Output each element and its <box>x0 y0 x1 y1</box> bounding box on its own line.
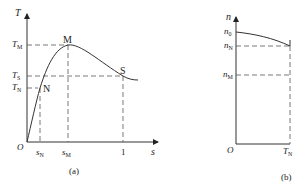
a-tick-sN: sN <box>36 148 44 158</box>
a-tick-1: 1 <box>121 148 126 157</box>
a-tick-sM: sM <box>62 148 71 158</box>
a-origin-label: O <box>17 143 24 152</box>
point-N-label: N <box>43 84 50 94</box>
point-M-label: M <box>63 35 72 45</box>
a-x-axis-label: s <box>151 147 155 157</box>
caption-a: (a) <box>69 167 79 176</box>
a-tick-TS: TS <box>12 71 20 81</box>
speed-torque-curve <box>236 32 290 46</box>
b-tick-nN: nN <box>224 41 233 51</box>
figure-b-axes <box>236 17 290 144</box>
figure-a-dashes <box>27 45 123 142</box>
b-tick-TN: TN <box>283 147 292 157</box>
a-tick-TM: TM <box>12 40 22 50</box>
a-y-axis-label: T <box>15 8 21 18</box>
point-S-label: S <box>120 66 126 76</box>
figure-a-axes <box>27 14 158 142</box>
caption-b: (b) <box>281 173 292 182</box>
b-tick-n0: n0 <box>224 27 232 37</box>
a-tick-TN: TN <box>12 83 21 93</box>
figure-b-dashes <box>236 46 290 144</box>
b-tick-nM: nM <box>223 70 233 80</box>
diagram-canvas <box>0 0 293 191</box>
b-y-axis-label: n <box>226 12 231 22</box>
b-origin-label: O <box>227 146 234 155</box>
